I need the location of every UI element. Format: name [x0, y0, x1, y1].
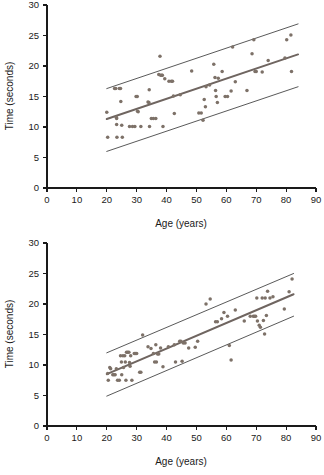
- data-point: [128, 364, 132, 368]
- data-point: [196, 339, 200, 343]
- plot-axes-bottom: [47, 243, 316, 426]
- data-point: [136, 95, 140, 99]
- data-point: [204, 302, 208, 306]
- y-ticks-bottom: 051015202530: [28, 238, 47, 431]
- data-point: [163, 77, 167, 81]
- data-point: [266, 59, 270, 63]
- data-point: [213, 76, 217, 80]
- data-point: [147, 88, 151, 92]
- x-tick-label: 50: [191, 194, 202, 205]
- data-point: [161, 125, 165, 129]
- y-tick-label: 10: [28, 359, 39, 370]
- data-point: [152, 352, 156, 356]
- data-point: [289, 33, 293, 37]
- data-point: [136, 110, 140, 114]
- data-point: [290, 70, 294, 74]
- x-axis-title-top: Age (years): [155, 218, 207, 229]
- data-point: [106, 372, 110, 376]
- data-point: [115, 367, 119, 371]
- x-tick-label: 0: [44, 194, 49, 205]
- data-point: [161, 365, 165, 369]
- data-point: [216, 101, 220, 105]
- y-tick-label: 30: [28, 238, 39, 248]
- data-point: [183, 341, 187, 345]
- data-point: [252, 38, 256, 42]
- y-tick-label: 30: [28, 0, 39, 10]
- data-point: [146, 345, 150, 349]
- y-tick-label: 15: [28, 91, 39, 102]
- figure-two-scatter-panels: 051015202530 0102030405060708090 Age (ye…: [0, 0, 324, 475]
- data-point: [171, 80, 175, 84]
- data-point: [234, 308, 238, 312]
- data-point: [220, 70, 224, 74]
- data-point: [113, 373, 117, 377]
- x-tick-label: 70: [251, 194, 262, 205]
- data-point: [120, 373, 124, 377]
- x-tick-label: 60: [221, 194, 232, 205]
- data-point: [234, 80, 238, 84]
- y-tick-label: 25: [28, 30, 39, 41]
- data-point: [254, 70, 258, 74]
- data-point: [172, 94, 176, 98]
- data-point: [179, 93, 183, 97]
- data-point: [260, 296, 264, 300]
- data-point: [167, 345, 171, 349]
- x-axis-title-bottom: Age (years): [155, 456, 207, 467]
- lower-confidence-band: [107, 316, 294, 396]
- data-point: [214, 89, 218, 93]
- scatter-plot-bottom: 051015202530 0102030405060708090 Age (ye…: [0, 238, 324, 475]
- data-point: [114, 87, 118, 91]
- chart-panel-top: 051015202530 0102030405060708090 Age (ye…: [0, 0, 324, 237]
- upper-confidence-band: [107, 24, 298, 89]
- data-point: [268, 296, 272, 300]
- data-point: [285, 38, 289, 42]
- data-point: [263, 332, 267, 336]
- data-point: [262, 319, 266, 323]
- y-tick-label: 0: [34, 182, 39, 193]
- data-point: [250, 52, 254, 56]
- data-point: [263, 296, 267, 300]
- data-point: [180, 360, 184, 364]
- data-points-bottom: [106, 277, 294, 382]
- data-point: [141, 333, 145, 337]
- data-point: [220, 317, 224, 321]
- data-point: [201, 119, 205, 123]
- x-tick-label: 50: [191, 432, 202, 443]
- data-point: [212, 62, 216, 66]
- data-point: [118, 379, 122, 383]
- data-point: [123, 354, 127, 358]
- x-tick-label: 70: [251, 432, 262, 443]
- x-tick-label: 80: [281, 194, 292, 205]
- data-point: [121, 136, 125, 140]
- data-point: [155, 360, 159, 364]
- data-point: [194, 346, 198, 350]
- data-point: [222, 311, 226, 315]
- data-point: [256, 319, 260, 323]
- y-tick-label: 5: [34, 390, 39, 401]
- y-tick-label: 20: [28, 60, 39, 71]
- y-tick-label: 5: [34, 152, 39, 163]
- x-tick-label: 40: [161, 432, 172, 443]
- data-point: [229, 358, 233, 362]
- data-point: [173, 343, 177, 347]
- data-point: [266, 289, 270, 293]
- y-tick-label: 15: [28, 329, 39, 340]
- data-point: [115, 136, 119, 140]
- data-point: [109, 367, 113, 371]
- data-point: [149, 347, 153, 351]
- data-point: [127, 350, 131, 354]
- data-point: [226, 95, 230, 99]
- x-tick-label: 90: [311, 194, 322, 205]
- data-point: [173, 112, 177, 116]
- data-point: [216, 320, 220, 324]
- x-ticks-bottom: 0102030405060708090: [44, 426, 321, 443]
- data-point: [159, 346, 163, 350]
- data-point: [283, 56, 287, 60]
- upper-confidence-band: [107, 274, 294, 353]
- regression-line-top: [107, 54, 298, 119]
- data-point: [157, 352, 161, 356]
- data-point: [245, 89, 249, 93]
- data-point: [214, 95, 218, 99]
- x-tick-label: 0: [44, 432, 49, 443]
- data-point: [129, 354, 133, 358]
